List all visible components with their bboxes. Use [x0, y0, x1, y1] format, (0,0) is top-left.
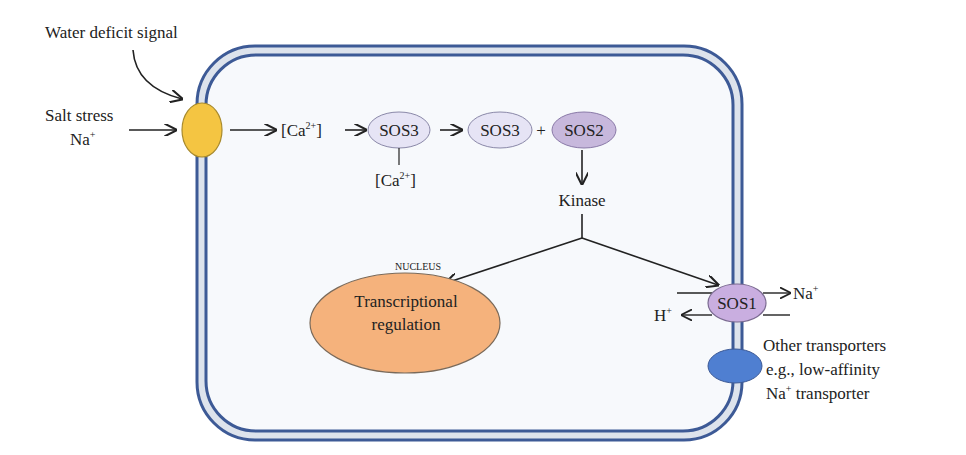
- nucleus-label: NUCLEUS: [395, 261, 441, 272]
- sos2-label: SOS2: [564, 121, 604, 140]
- ca-bound-label: [Ca2+]: [375, 170, 416, 190]
- salt-stress-signaling-diagram: Water deficit signal Salt stress Na+ [Ca…: [0, 0, 966, 455]
- sos1-label: SOS1: [717, 294, 757, 313]
- kinase-label: Kinase: [558, 191, 605, 210]
- na-transporter-label: Na+ transporter: [766, 383, 870, 403]
- sos3-complex-label: SOS3: [480, 121, 520, 140]
- na-out-label: Na+: [793, 283, 819, 303]
- salt-stress-label: Salt stress: [45, 106, 113, 125]
- other-transporters-label: Other transporters: [763, 336, 886, 355]
- sos3-label: SOS3: [379, 121, 419, 140]
- sensor-channel: [182, 103, 222, 157]
- regulation-label: regulation: [372, 315, 441, 334]
- transcriptional-label: Transcriptional: [354, 292, 458, 311]
- na-label: Na+: [70, 129, 96, 149]
- ca-label: [Ca2+]: [281, 120, 322, 140]
- water-deficit-arrow: [133, 50, 182, 99]
- water-deficit-label: Water deficit signal: [45, 23, 178, 42]
- cell-membrane: [197, 46, 742, 440]
- plus-sign: +: [536, 121, 546, 140]
- low-affinity-label: e.g., low-affinity: [766, 360, 880, 379]
- other-transporter: [708, 349, 762, 383]
